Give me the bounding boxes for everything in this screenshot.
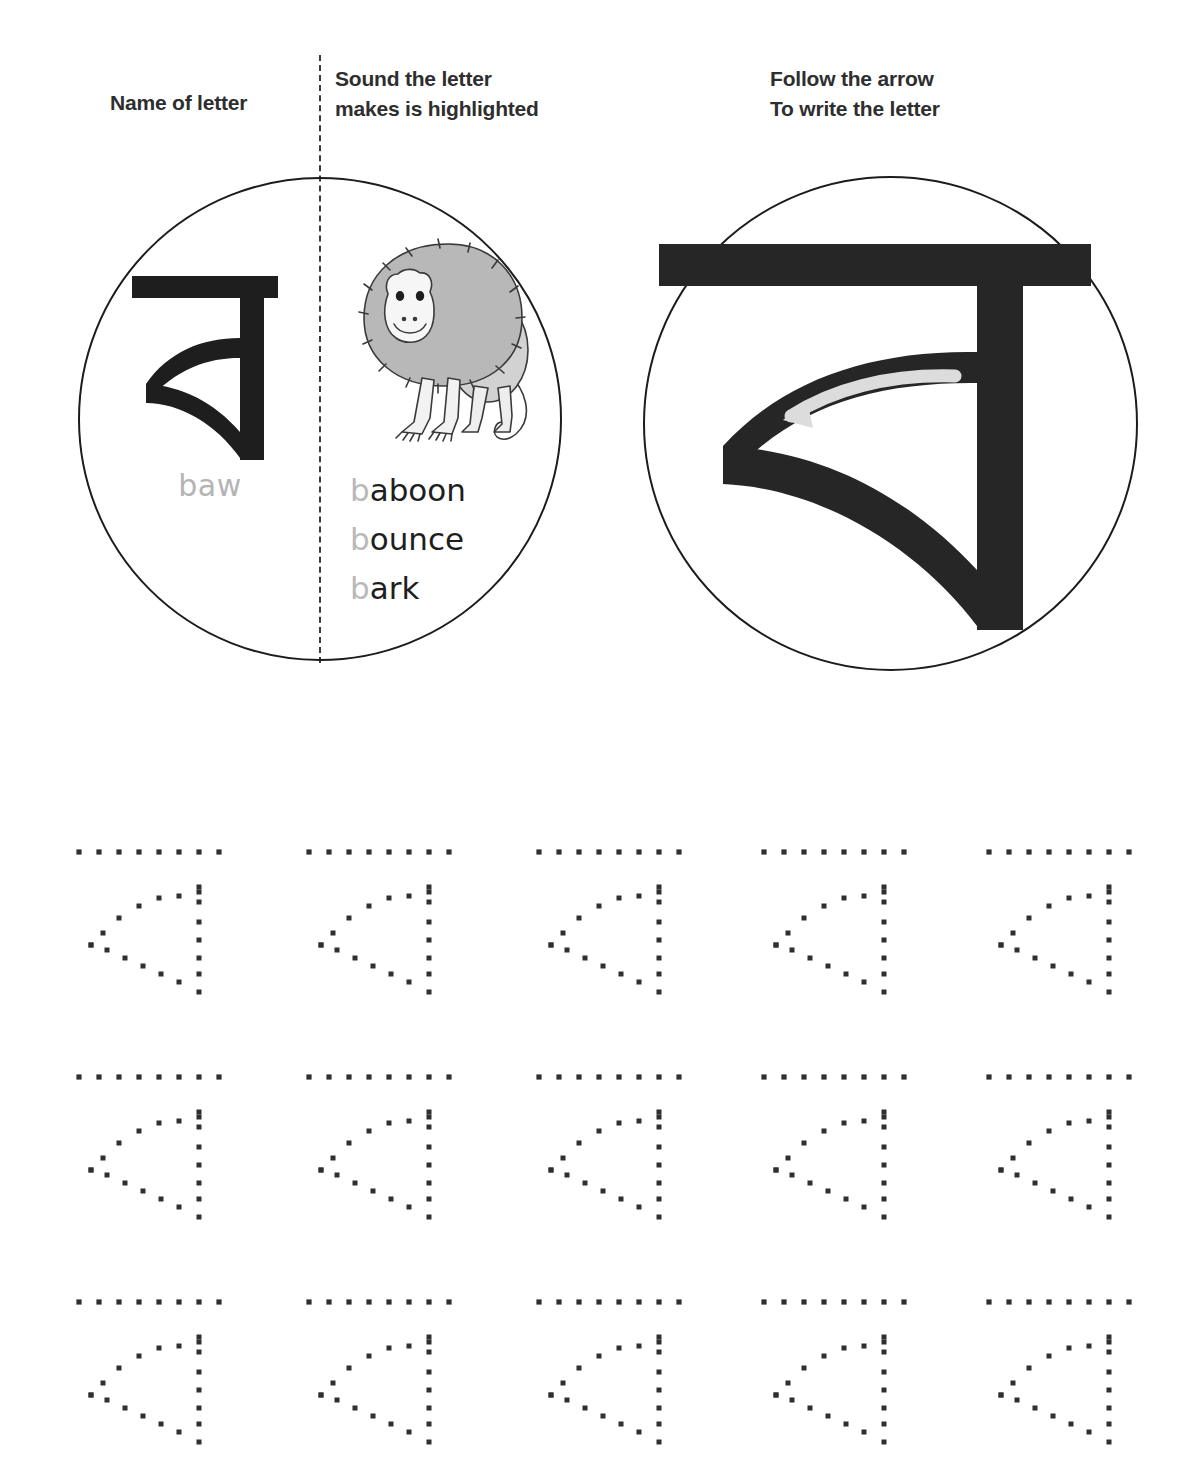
tracing-letter-2[interactable]	[535, 840, 695, 1010]
tracing-letter-0[interactable]	[75, 840, 235, 1010]
word-rest-0: aboon	[370, 472, 466, 508]
tracing-letter-1[interactable]	[305, 840, 465, 1010]
word-highlight-0: b	[350, 472, 370, 508]
dots-upper-curve	[319, 1115, 432, 1173]
dots-top-bar	[306, 1299, 451, 1304]
dots-top-bar	[761, 1299, 906, 1304]
bengali-letter-glyph-large	[655, 240, 1095, 640]
tracing-letter-9[interactable]	[985, 1065, 1145, 1235]
tracing-letter-14[interactable]	[985, 1290, 1145, 1460]
dots-upper-curve	[999, 1115, 1112, 1173]
dots-upper-curve	[549, 1340, 662, 1398]
tracing-dots	[760, 1065, 920, 1235]
tracing-dots	[985, 1065, 1145, 1235]
tracing-dots	[985, 1290, 1145, 1460]
tracing-dots	[535, 1290, 695, 1460]
dots-stem	[1107, 1335, 1112, 1445]
tracing-dots	[760, 840, 920, 1010]
dots-lower-curve	[549, 1168, 642, 1210]
word-highlight-2: b	[350, 570, 370, 606]
tracing-dots	[760, 1290, 920, 1460]
tracing-dots	[305, 1290, 465, 1460]
dots-lower-curve	[774, 943, 867, 985]
tracing-dots	[535, 840, 695, 1010]
dots-lower-curve	[319, 1168, 412, 1210]
dots-lower-curve	[549, 943, 642, 985]
dots-upper-curve	[319, 1340, 432, 1398]
dots-upper-curve	[549, 890, 662, 948]
dots-stem	[1107, 1110, 1112, 1220]
word-item-2: bark	[350, 564, 560, 613]
dots-stem	[882, 1110, 887, 1220]
dots-upper-curve	[774, 1115, 887, 1173]
tracing-letter-8[interactable]	[760, 1065, 920, 1235]
tracing-letter-3[interactable]	[760, 840, 920, 1010]
tracing-dots	[75, 1290, 235, 1460]
letter-name-label: baw	[150, 468, 270, 503]
dots-stem	[657, 885, 662, 995]
dots-stem	[657, 1110, 662, 1220]
dots-top-bar	[76, 1299, 221, 1304]
dots-stem	[197, 1110, 202, 1220]
word-highlight-1: b	[350, 521, 370, 557]
dots-top-bar	[536, 849, 681, 854]
tracing-letter-12[interactable]	[535, 1290, 695, 1460]
dots-lower-curve	[999, 943, 1092, 985]
tracing-letter-10[interactable]	[75, 1290, 235, 1460]
dots-upper-curve	[549, 1115, 662, 1173]
tracing-dots	[305, 840, 465, 1010]
dots-lower-curve	[319, 1393, 412, 1435]
tracing-dots	[75, 1065, 235, 1235]
dots-stem	[427, 1335, 432, 1445]
tracing-dots	[535, 1065, 695, 1235]
dots-top-bar	[761, 849, 906, 854]
dots-lower-curve	[774, 1168, 867, 1210]
dots-top-bar	[986, 849, 1131, 854]
word-list: baboon bounce bark	[350, 466, 560, 613]
dots-lower-curve	[999, 1168, 1092, 1210]
dots-stem	[427, 885, 432, 995]
dots-stem	[882, 885, 887, 995]
dots-top-bar	[76, 1074, 221, 1079]
dots-stem	[197, 885, 202, 995]
dots-stem	[882, 1335, 887, 1445]
word-rest-2: ark	[370, 570, 420, 606]
tracing-dots	[985, 840, 1145, 1010]
dots-top-bar	[761, 1074, 906, 1079]
dots-stem	[427, 1110, 432, 1220]
dots-lower-curve	[319, 943, 412, 985]
dots-upper-curve	[89, 1115, 202, 1173]
header-follow-the-arrow: Follow the arrow To write the letter	[770, 64, 1070, 124]
dots-top-bar	[536, 1299, 681, 1304]
dots-lower-curve	[89, 1168, 182, 1210]
dots-upper-curve	[774, 890, 887, 948]
dots-stem	[1107, 885, 1112, 995]
tracing-letter-7[interactable]	[535, 1065, 695, 1235]
tracing-dots	[75, 840, 235, 1010]
bengali-letter-glyph-small	[130, 272, 280, 462]
tracing-dots	[305, 1065, 465, 1235]
header-name-of-letter: Name of letter	[110, 88, 310, 118]
dots-lower-curve	[999, 1393, 1092, 1435]
dots-upper-curve	[774, 1340, 887, 1398]
tracing-letter-5[interactable]	[75, 1065, 235, 1235]
header-sound-the-letter: Sound the letter makes is highlighted	[335, 64, 625, 124]
tracing-letter-6[interactable]	[305, 1065, 465, 1235]
tracing-letter-4[interactable]	[985, 840, 1145, 1010]
dots-upper-curve	[319, 890, 432, 948]
dots-upper-curve	[999, 890, 1112, 948]
tracing-practice-grid[interactable]	[0, 820, 1186, 1479]
dots-top-bar	[986, 1299, 1131, 1304]
word-item-1: bounce	[350, 515, 560, 564]
word-item-0: baboon	[350, 466, 560, 515]
dots-lower-curve	[774, 1393, 867, 1435]
dots-top-bar	[536, 1074, 681, 1079]
dots-stem	[197, 1335, 202, 1445]
tracing-letter-11[interactable]	[305, 1290, 465, 1460]
dots-top-bar	[986, 1074, 1131, 1079]
dots-upper-curve	[999, 1340, 1112, 1398]
word-rest-1: ounce	[370, 521, 464, 557]
baboon-icon	[352, 218, 544, 448]
dots-lower-curve	[89, 1393, 182, 1435]
tracing-letter-13[interactable]	[760, 1290, 920, 1460]
